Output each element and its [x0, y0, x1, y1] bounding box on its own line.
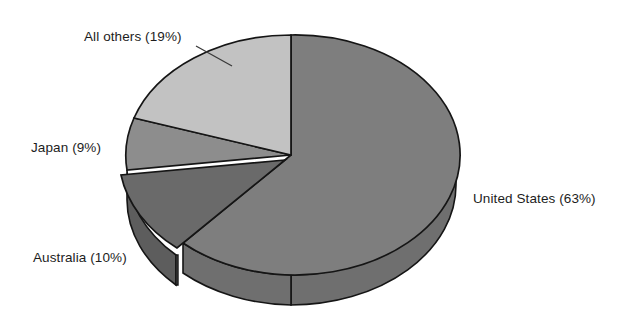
slice-label-united-states: United States (63%) [473, 191, 596, 206]
pie-chart-graphic [0, 0, 630, 328]
pie-chart-figure: All others (19%) Japan (9%) Australia (1… [0, 0, 630, 328]
slice-label-australia: Australia (10%) [33, 250, 127, 265]
slice-label-all-others: All others (19%) [84, 29, 182, 44]
slice-label-japan: Japan (9%) [31, 140, 101, 155]
